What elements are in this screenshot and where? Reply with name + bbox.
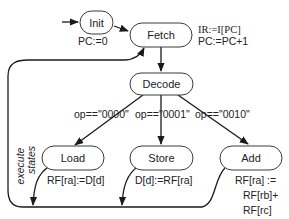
transition-label-store: op=="0001" xyxy=(135,108,190,120)
state-decode-label: Decode xyxy=(143,78,181,90)
add-action-line-1: RF[ra] := xyxy=(235,174,276,186)
state-add-label: Add xyxy=(241,152,261,164)
transition-label-load: op=="0000" xyxy=(74,108,129,120)
fetch-action-line-1: IR:=I[PC] xyxy=(198,24,241,35)
fetch-action-line-2: PC:=PC+1 xyxy=(198,35,248,47)
store-action: D[d]:=RF[ra] xyxy=(135,174,193,186)
edge-init-to-fetch xyxy=(114,26,128,31)
add-action-line-2: RF[rb]+ xyxy=(243,189,278,201)
state-store: Store xyxy=(130,146,193,170)
state-store-label: Store xyxy=(148,152,174,164)
state-diagram: Init PC:=0 Fetch IR:=I[PC] PC:=PC+1 Deco… xyxy=(0,0,289,219)
load-action: RF[ra]:=D[d] xyxy=(47,174,105,186)
edge-decode-to-load xyxy=(75,95,143,145)
state-fetch-label: Fetch xyxy=(147,29,175,41)
transition-label-add: op=="0010" xyxy=(195,108,250,120)
init-action: PC:=0 xyxy=(78,35,108,47)
state-load-label: Load xyxy=(61,152,85,164)
add-action-line-3: RF[rc] xyxy=(243,204,272,216)
state-add: Add xyxy=(220,146,282,170)
state-init: Init xyxy=(80,11,113,34)
state-fetch: Fetch xyxy=(130,23,192,47)
state-load: Load xyxy=(42,146,104,170)
state-decode: Decode xyxy=(130,73,193,95)
execute-states-label-line-2: states xyxy=(25,145,37,174)
state-init-label: Init xyxy=(89,17,104,29)
